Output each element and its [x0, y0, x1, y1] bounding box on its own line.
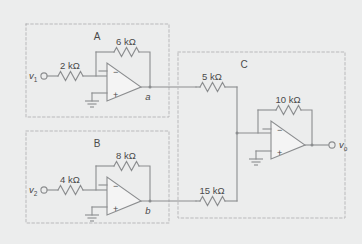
section-label-a: A [94, 31, 101, 42]
node-label-a: a [145, 91, 150, 102]
diagram-background [0, 0, 362, 244]
circuit-diagram: A B C 2 kΩ 6 kΩ 4 kΩ 8 kΩ 5 kΩ 15 kΩ 10 … [0, 0, 362, 244]
opamp-a-minus-sign: − [113, 67, 118, 77]
resistor-label-8k: 8 kΩ [116, 150, 136, 161]
resistor-label-6k: 6 kΩ [116, 36, 136, 47]
terminal-vo[interactable] [329, 142, 335, 148]
opamp-a-plus-sign: + [113, 90, 118, 100]
resistor-label-2k: 2 kΩ [60, 60, 80, 71]
terminal-v2[interactable] [41, 187, 47, 193]
junction-c-feedback [311, 144, 314, 147]
node-label-b: b [145, 205, 150, 216]
section-label-b: B [94, 138, 101, 149]
opamp-b-minus-sign: − [113, 181, 118, 191]
section-label-c: C [240, 59, 247, 70]
resistor-label-5k: 5 kΩ [202, 71, 222, 82]
junction-b-feedback [149, 200, 152, 203]
junction-summing-node [236, 132, 239, 135]
resistor-label-15k: 15 kΩ [199, 185, 224, 196]
junction-a-feedback [149, 86, 152, 89]
resistor-label-10k: 10 kΩ [275, 94, 300, 105]
resistor-label-4k: 4 kΩ [60, 174, 80, 185]
terminal-v1[interactable] [41, 73, 47, 79]
opamp-c-minus-sign: − [277, 125, 282, 135]
figure-caption [6, 231, 86, 242]
opamp-b-plus-sign: + [113, 204, 118, 214]
opamp-c-plus-sign: + [277, 148, 282, 158]
